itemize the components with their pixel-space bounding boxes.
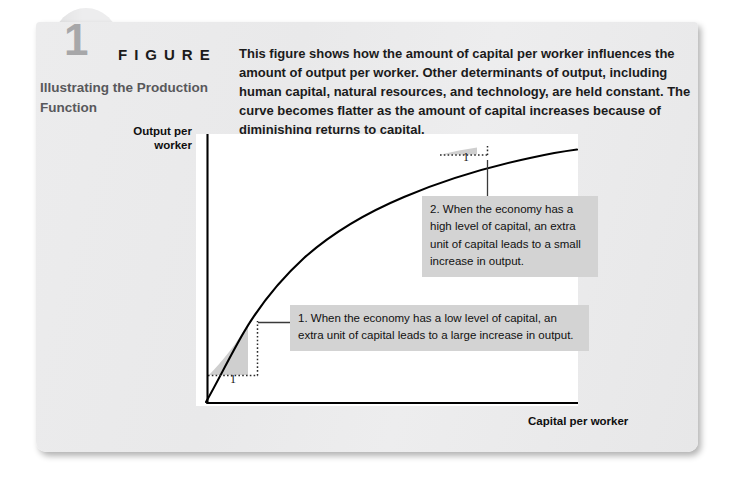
high-capital-run-label: 1 [463, 150, 469, 165]
x-axis-title: Capital per worker [528, 414, 648, 428]
y-axis-title: Output per worker [118, 124, 192, 153]
figure-number: 1 [64, 18, 87, 62]
figure-word-label: FIGURE [118, 46, 217, 63]
callout-high-capital: 2. When the economy has a high level of … [422, 196, 598, 277]
callout-low-capital: 1. When the economy has a low level of c… [290, 305, 589, 351]
figure-subtitle: Illustrating the Production Function [40, 78, 225, 117]
low-capital-shaded-region [209, 323, 248, 375]
figure-caption: This figure shows how the amount of capi… [239, 44, 702, 140]
low-capital-run-label: 1 [230, 372, 236, 387]
high-capital-shaded-region [441, 147, 477, 154]
